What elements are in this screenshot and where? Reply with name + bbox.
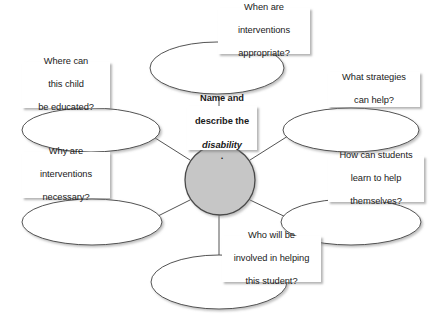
node-where-educated-text: Where canthis childbe educated? [27, 56, 105, 113]
node-why-interventions-text: Why areinterventionsnecessary? [27, 146, 105, 203]
ellipse-upper-left [22, 108, 160, 152]
node-who-involved-text: Who will beinvolved in helpingthis stude… [227, 230, 316, 287]
node-when-interventions-text: When areinterventionsappropriate? [223, 2, 305, 59]
node-why-interventions[interactable]: Why areinterventionsnecessary? [22, 152, 110, 198]
node-where-educated[interactable]: Where canthis childbe educated? [22, 62, 110, 108]
center-topic-text: Name anddescribe thedisability. [191, 93, 253, 163]
node-who-involved[interactable]: Who will beinvolved in helpingthis stude… [222, 236, 321, 282]
node-what-strategies-text: What strategiescan help? [333, 72, 415, 106]
diagram-canvas: When areinterventionsappropriate? Where … [0, 0, 442, 325]
ellipse-upper-right [283, 108, 419, 152]
center-topic-box[interactable]: Name anddescribe thedisability. [187, 106, 257, 150]
node-how-students-help[interactable]: How can studentslearn to helpthemselves? [328, 156, 424, 202]
node-when-interventions[interactable]: When areinterventionsappropriate? [218, 8, 310, 54]
node-what-strategies[interactable]: What strategiescan help? [328, 72, 420, 107]
ellipse-lower-left [22, 199, 162, 245]
connector-upper-left [152, 136, 190, 160]
node-how-students-help-text: How can studentslearn to helpthemselves? [333, 150, 419, 207]
